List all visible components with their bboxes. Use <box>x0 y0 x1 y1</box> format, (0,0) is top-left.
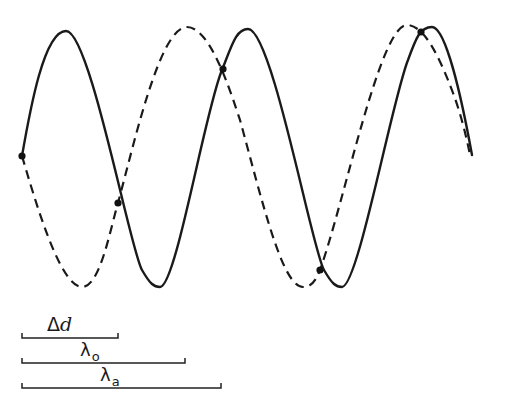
dashed-wave <box>22 25 470 287</box>
intersection-dot <box>114 199 121 206</box>
wave-interference-diagram <box>0 0 506 410</box>
solid-wave <box>22 27 472 287</box>
delta-d-label: Δd <box>47 313 72 335</box>
subscript-a: a <box>112 374 120 389</box>
intersection-dot <box>316 266 323 273</box>
d-symbol: d <box>60 313 72 335</box>
lambda-symbol: λ <box>100 364 111 385</box>
lambda-a-label: λa <box>100 364 120 385</box>
subscript-o: o <box>92 349 100 364</box>
lambda-a-scale-bar <box>22 383 221 388</box>
intersection-dot <box>219 65 226 72</box>
lambda-o-label: λo <box>80 339 100 360</box>
lambda-o-scale-bar <box>22 358 185 363</box>
delta-symbol: Δ <box>47 313 60 335</box>
lambda-symbol: λ <box>80 339 91 360</box>
intersection-dot <box>18 152 25 159</box>
intersection-dot <box>417 28 424 35</box>
